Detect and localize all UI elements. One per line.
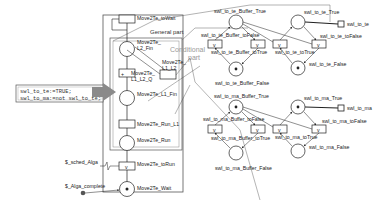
svg-text:v: v xyxy=(278,127,281,133)
input-complete-label: $_Alga_complete xyxy=(65,183,105,189)
svg-text:v: v xyxy=(213,127,216,133)
te-true[interactable] xyxy=(291,15,305,29)
te-buffer-true[interactable] xyxy=(229,15,243,29)
svg-text:Move2Te_Run_L1: Move2Te_Run_L1 xyxy=(137,121,179,127)
token xyxy=(126,188,129,191)
svg-text:swl_to_te_Buffer_toFalse: swl_to_te_Buffer_toFalse xyxy=(201,32,260,38)
input-complete-dot[interactable] xyxy=(81,191,86,196)
petri-net-diagram: General part Conditional part swl_to_te:… xyxy=(0,0,383,209)
te-output-port[interactable] xyxy=(338,21,344,27)
svg-text:swl_to_ma_Buffer_True: swl_to_ma_Buffer_True xyxy=(214,93,269,99)
svg-text:swl_to_te_Buffer_toTrue: swl_to_te_Buffer_toTrue xyxy=(211,49,267,55)
svg-text:swl_to_te: swl_to_te xyxy=(347,21,369,27)
svg-text:swl_to_ma_toTrue: swl_to_ma_toTrue xyxy=(275,134,318,140)
svg-text:v: v xyxy=(125,164,128,170)
conditional-part-label-1: Conditional xyxy=(170,46,205,53)
svg-text:swl_to_te_False: swl_to_te_False xyxy=(309,61,347,67)
general-part-label: General part xyxy=(150,29,184,35)
svg-text:Move2Te_Run: Move2Te_Run xyxy=(137,137,171,143)
ma-buffer-false[interactable] xyxy=(229,146,243,160)
svg-text:swl_to_te_Buffer_False: swl_to_te_Buffer_False xyxy=(215,80,269,86)
place-L1-Fin[interactable] xyxy=(120,91,135,106)
svg-text:Move2Te_Wait: Move2Te_Wait xyxy=(137,185,172,191)
svg-text:v: v xyxy=(213,42,216,48)
svg-text:L1_L2: L1_L2 xyxy=(162,65,177,71)
svg-text:swl_to_ma_Buffer_False: swl_to_ma_Buffer_False xyxy=(215,165,272,171)
transition-Run-L1[interactable] xyxy=(119,120,135,128)
svg-text:swl_to_ma_False: swl_to_ma_False xyxy=(309,144,349,150)
code-line-1: swl_to_te:=TRUE; xyxy=(20,89,72,95)
svg-text:v: v xyxy=(317,127,320,133)
svg-text:swl_to_ma: swl_to_ma xyxy=(347,105,372,111)
input-sched-label: $_sched_Alga xyxy=(65,159,98,165)
svg-text:Move2Te_L1_Fin: Move2Te_L1_Fin xyxy=(137,91,177,97)
svg-text:Move2Te_toRun: Move2Te_toRun xyxy=(137,161,175,167)
ma-false[interactable] xyxy=(291,144,305,158)
svg-text:v: v xyxy=(317,42,320,48)
svg-text:swl_to_te_Buffer_True: swl_to_te_Buffer_True xyxy=(214,8,266,14)
place-L2-Fin[interactable] xyxy=(120,42,135,57)
svg-text:swl_to_ma_Buffer_toFalse: swl_to_ma_Buffer_toFalse xyxy=(203,116,264,122)
svg-text:swl_to_te_True: swl_to_te_True xyxy=(304,9,339,15)
svg-text:+: + xyxy=(121,71,124,77)
code-line-2: swl_to_ma:=not swl_to_te; xyxy=(20,96,101,102)
transition-L1-L2[interactable] xyxy=(160,70,176,79)
svg-text:Move2Te_toWait: Move2Te_toWait xyxy=(137,15,176,21)
svg-text:v: v xyxy=(256,42,259,48)
svg-text:swl_to_ma_toFalse: swl_to_ma_toFalse xyxy=(322,118,367,124)
place-Run[interactable] xyxy=(120,136,135,151)
transition-toWait[interactable] xyxy=(119,15,135,23)
svg-text:L1_L2_Q: L1_L2_Q xyxy=(131,76,152,82)
svg-text:swl_to_ma_True: swl_to_ma_True xyxy=(304,95,342,101)
svg-text:swl_to_te_toFalse: swl_to_te_toFalse xyxy=(320,33,362,39)
svg-text:v: v xyxy=(278,42,281,48)
ma-output-port[interactable] xyxy=(338,105,344,111)
svg-text:v: v xyxy=(256,127,259,133)
svg-text:swl_to_te_toTrue: swl_to_te_toTrue xyxy=(275,49,315,55)
